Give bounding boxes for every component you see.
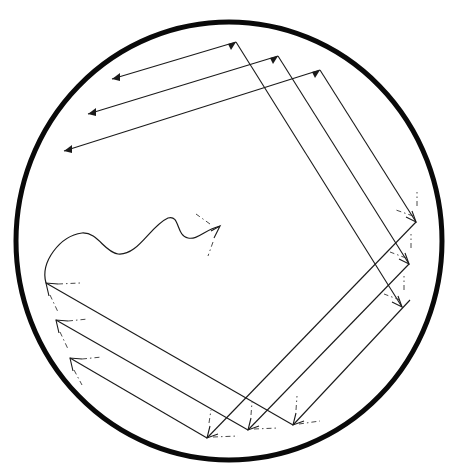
normal-line	[209, 410, 238, 437]
top-arrow-2	[88, 56, 278, 114]
arrowhead-icon	[112, 73, 120, 81]
arrowhead-icon	[56, 320, 68, 333]
wavy-path	[45, 214, 220, 283]
top-arrows	[64, 42, 320, 153]
right-to-bottom-rays	[207, 222, 416, 438]
arrowhead-icon	[312, 70, 320, 78]
reflection-diagram	[0, 0, 457, 471]
bottom-to-left-rays	[46, 283, 293, 438]
ray-rb-2	[248, 264, 409, 430]
ray-bl-2	[56, 320, 248, 430]
ray-bl-3	[70, 358, 207, 438]
wavy-ray	[45, 218, 220, 283]
arrowhead-icon	[228, 42, 236, 50]
descending-rays	[236, 42, 417, 307]
arrowhead-icon	[46, 283, 58, 296]
arrowhead-icon	[64, 145, 72, 153]
circle-boundary	[16, 22, 442, 460]
ray-rb-3	[293, 300, 410, 425]
normal-line	[60, 319, 88, 349]
ray-descending-2	[278, 56, 409, 264]
diagram-canvas	[0, 0, 457, 471]
normal-line	[74, 357, 102, 385]
arrowhead-icon	[88, 108, 96, 116]
arrowhead-icon	[270, 56, 278, 64]
normal-line	[251, 402, 278, 429]
normal-line	[196, 214, 213, 256]
